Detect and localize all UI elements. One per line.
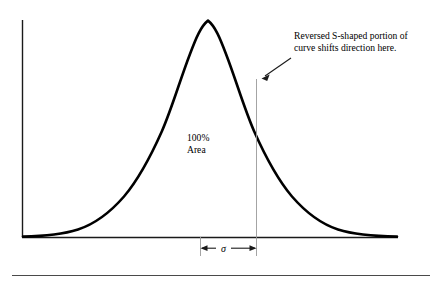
annotation-leader-line [265,58,291,76]
sigma-label: σ [221,243,227,254]
area-label-line1: 100% [187,132,209,143]
annotation-label-line1: Reversed S-shaped portion of [294,30,409,41]
sigma-arrowhead-left-icon [201,245,208,251]
annotation-label-line2: curve shifts direction here. [294,42,396,53]
normal-curve-figure: σ 100% Area Reversed S-shaped portion of… [0,0,446,281]
normal-distribution-curve [23,21,397,237]
figure-canvas: σ 100% Area Reversed S-shaped portion of… [0,0,446,281]
area-label-line2: Area [187,144,206,155]
sigma-arrowhead-right-icon [250,245,257,251]
